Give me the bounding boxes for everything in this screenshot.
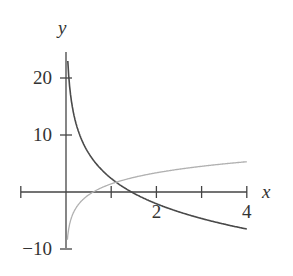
x-axis	[21, 186, 247, 198]
chart: 242010−10 x y	[0, 0, 293, 276]
x-axis-label: x	[261, 181, 271, 202]
y-tick-label: 10	[33, 124, 52, 145]
y-tick-label: 20	[33, 67, 52, 88]
y-tick-label: −10	[22, 238, 52, 259]
y-axis-label: y	[56, 17, 67, 38]
x-tick-label: 4	[242, 201, 252, 222]
dark-curve	[68, 61, 247, 229]
